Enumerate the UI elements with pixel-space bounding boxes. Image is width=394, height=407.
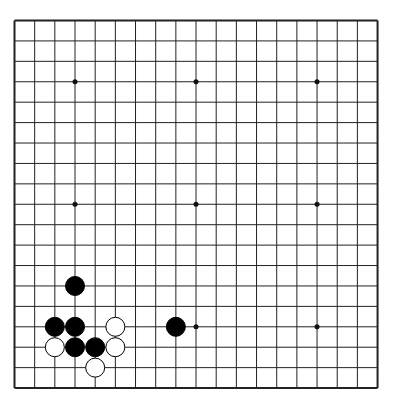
star-point [315, 79, 320, 84]
black-stone [66, 338, 85, 357]
star-point [315, 324, 320, 329]
black-stone [166, 317, 185, 336]
go-board[interactable] [0, 0, 394, 407]
white-stone [45, 338, 64, 357]
black-stone [45, 317, 64, 336]
black-stone [66, 317, 85, 336]
star-point [194, 202, 199, 207]
star-point [194, 324, 199, 329]
white-stone [106, 317, 125, 336]
white-stone [86, 358, 105, 377]
black-stone [86, 338, 105, 357]
black-stone [66, 276, 85, 295]
star-point [73, 202, 78, 207]
star-point [73, 79, 78, 84]
star-point [315, 202, 320, 207]
white-stone [106, 338, 125, 357]
star-point [194, 79, 199, 84]
